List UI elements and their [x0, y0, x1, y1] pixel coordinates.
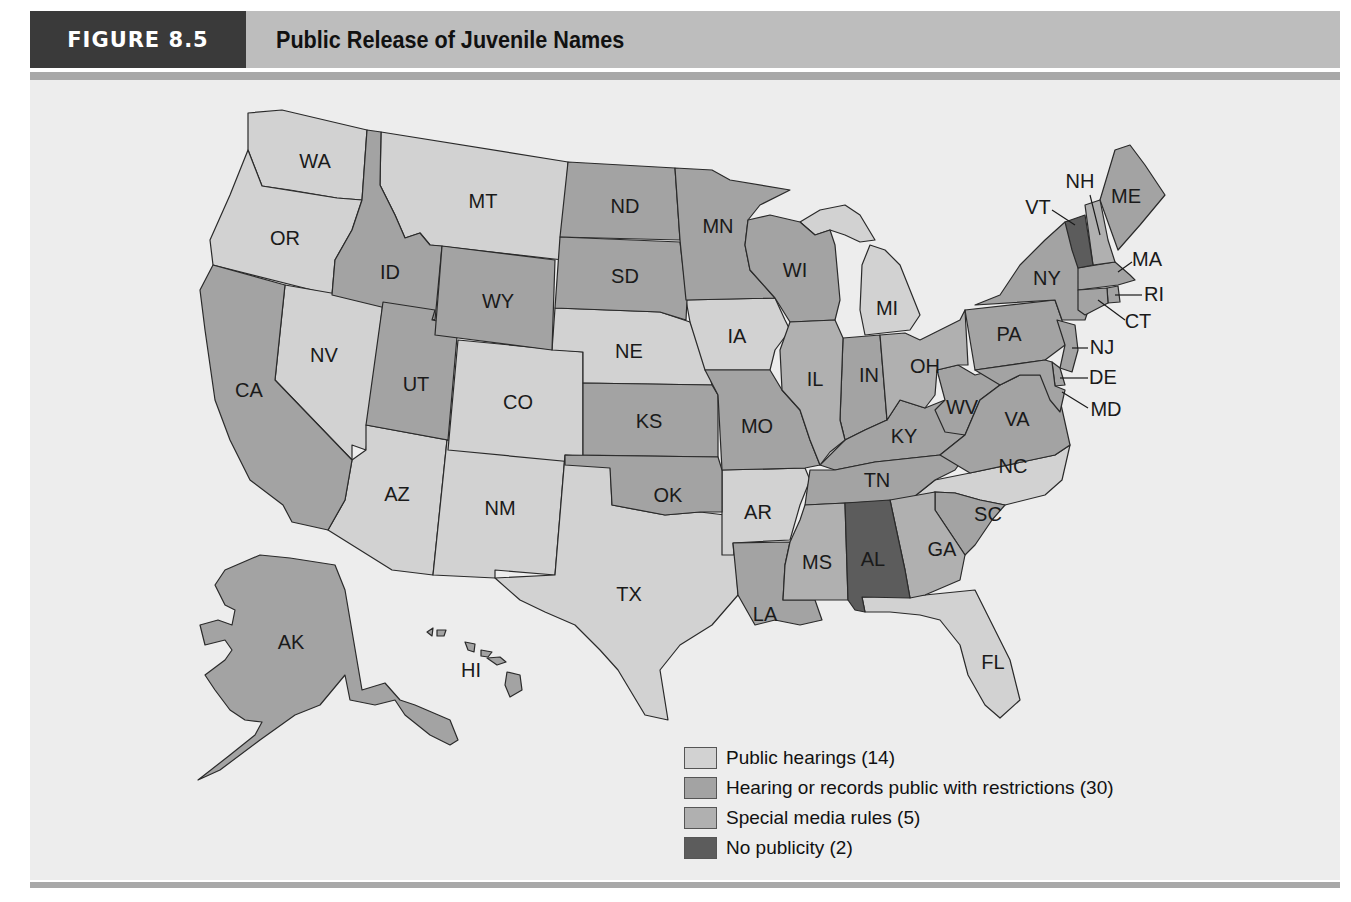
- state-AK: [198, 555, 458, 780]
- legend-label: No publicity (2): [726, 837, 853, 859]
- label-MA: MA: [1132, 248, 1163, 270]
- label-OK: OK: [654, 484, 684, 506]
- label-TX: TX: [616, 583, 642, 605]
- label-ND: ND: [611, 195, 640, 217]
- label-IN: IN: [859, 364, 879, 386]
- label-DE: DE: [1089, 366, 1117, 388]
- label-AR: AR: [744, 501, 772, 523]
- label-NM: NM: [484, 497, 515, 519]
- label-NJ: NJ: [1090, 336, 1114, 358]
- legend: Public hearings (14) Hearing or records …: [684, 743, 1114, 863]
- label-TN: TN: [864, 469, 891, 491]
- state-CT: [1078, 288, 1108, 315]
- label-PA: PA: [996, 323, 1022, 345]
- legend-item-no-publicity: No publicity (2): [684, 833, 1114, 863]
- label-FL: FL: [981, 651, 1004, 673]
- label-AZ: AZ: [384, 483, 410, 505]
- label-OH: OH: [910, 355, 940, 377]
- label-NH: NH: [1066, 170, 1095, 192]
- label-UT: UT: [403, 373, 430, 395]
- label-SD: SD: [611, 265, 639, 287]
- label-ME: ME: [1111, 185, 1141, 207]
- label-NV: NV: [310, 344, 338, 366]
- state-HI-6: [505, 672, 522, 697]
- legend-label: Public hearings (14): [726, 747, 895, 769]
- label-CT: CT: [1125, 310, 1152, 332]
- state-MI: [860, 245, 920, 335]
- label-CO: CO: [503, 391, 533, 413]
- label-KS: KS: [636, 410, 663, 432]
- label-NY: NY: [1033, 267, 1061, 289]
- swatch-special-media: [684, 807, 717, 829]
- label-VA: VA: [1004, 408, 1030, 430]
- legend-label: Hearing or records public with restricti…: [726, 777, 1114, 799]
- label-MN: MN: [702, 215, 733, 237]
- label-HI: HI: [461, 659, 481, 681]
- label-KY: KY: [891, 425, 918, 447]
- label-MS: MS: [802, 551, 832, 573]
- label-AL: AL: [861, 548, 885, 570]
- label-MD: MD: [1090, 398, 1121, 420]
- state-HI-2: [437, 630, 446, 636]
- state-HI-1: [427, 628, 433, 636]
- label-NC: NC: [999, 455, 1028, 477]
- state-HI-3: [465, 642, 475, 652]
- label-MO: MO: [741, 415, 773, 437]
- label-AK: AK: [278, 631, 305, 653]
- legend-label: Special media rules (5): [726, 807, 920, 829]
- label-SC: SC: [974, 503, 1002, 525]
- label-VT: VT: [1025, 196, 1051, 218]
- legend-item-special-media: Special media rules (5): [684, 803, 1114, 833]
- swatch-no-publicity: [684, 837, 717, 859]
- swatch-restrictions: [684, 777, 717, 799]
- label-WY: WY: [482, 290, 514, 312]
- leader-MD: [1062, 392, 1088, 408]
- legend-item-restrictions: Hearing or records public with restricti…: [684, 773, 1114, 803]
- label-WV: WV: [946, 396, 979, 418]
- label-IL: IL: [807, 368, 824, 390]
- label-MI: MI: [876, 297, 898, 319]
- label-CA: CA: [235, 379, 263, 401]
- label-OR: OR: [270, 227, 300, 249]
- label-WI: WI: [783, 259, 807, 281]
- state-HI-4: [481, 650, 492, 657]
- label-RI: RI: [1144, 283, 1164, 305]
- label-ID: ID: [380, 261, 400, 283]
- label-NE: NE: [615, 340, 643, 362]
- label-MT: MT: [469, 190, 498, 212]
- label-LA: LA: [753, 603, 778, 625]
- legend-item-public-hearings: Public hearings (14): [684, 743, 1114, 773]
- label-IA: IA: [728, 325, 748, 347]
- label-WA: WA: [299, 150, 331, 172]
- state-HI-5: [487, 657, 506, 665]
- label-GA: GA: [928, 538, 958, 560]
- us-map: WA OR CA ID NV MT WY UT AZ CO NM ND SD N…: [0, 0, 1351, 902]
- swatch-public-hearings: [684, 747, 717, 769]
